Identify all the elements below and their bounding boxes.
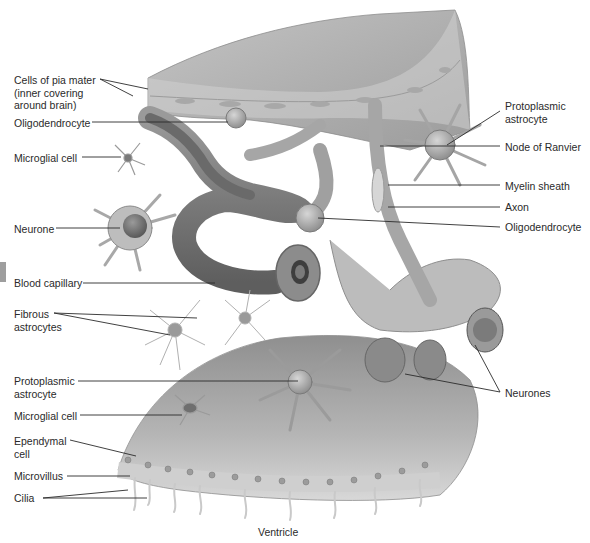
label-ependymal-cell: Ependymal cell: [14, 435, 67, 460]
label-blood-capillary: Blood capillary: [14, 277, 82, 290]
label-microvillus: Microvillus: [14, 470, 63, 483]
label-neurones: Neurones: [505, 387, 551, 400]
label-protoplasmic-astrocyte-bottom: Protoplasmic astrocyte: [14, 375, 75, 400]
label-pia-mater: Cells of pia mater (inner covering aroun…: [14, 74, 96, 112]
caption-ventricle: Ventricle: [258, 526, 298, 539]
neuroglia-diagram: Cells of pia mater (inner covering aroun…: [0, 0, 590, 543]
page-edge-marker: [0, 262, 6, 282]
label-axon: Axon: [505, 201, 529, 214]
label-oligodendrocyte-top: Oligodendrocyte: [14, 117, 90, 130]
label-myelin-sheath: Myelin sheath: [505, 180, 570, 193]
label-cilia: Cilia: [14, 492, 34, 505]
label-protoplasmic-astrocyte-top: Protoplasmic astrocyte: [505, 100, 566, 125]
label-node-of-ranvier: Node of Ranvier: [505, 141, 581, 154]
label-neurone: Neurone: [14, 223, 54, 236]
label-oligodendrocyte-right: Oligodendrocyte: [505, 221, 581, 234]
label-microglial-cell-bottom: Microglial cell: [14, 410, 77, 423]
neurone-left: [95, 195, 175, 270]
label-microglial-cell-top: Microglial cell: [14, 152, 77, 165]
label-fibrous-astrocytes: Fibrous astrocytes: [14, 308, 62, 333]
